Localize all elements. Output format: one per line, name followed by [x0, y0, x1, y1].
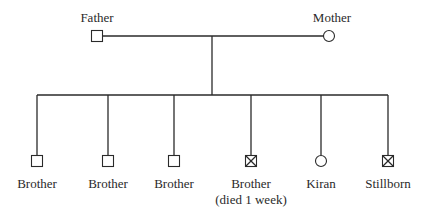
female-circle-icon [316, 156, 327, 167]
child-1: Brother [17, 95, 57, 191]
child-4-sublabel: (died 1 week) [215, 192, 286, 207]
parent-generation: Father Mother [80, 10, 351, 42]
deceased-male-square-icon [383, 156, 394, 167]
male-square-icon [169, 156, 180, 167]
child-5-label: Kiran [306, 176, 336, 191]
child-5: Kiran [306, 95, 336, 191]
child-3-label: Brother [154, 176, 194, 191]
child-6: Stillborn [365, 95, 411, 191]
father-square-icon [92, 31, 103, 42]
mother-label: Mother [313, 10, 352, 25]
child-4: Brother (died 1 week) [215, 95, 286, 207]
child-6-label: Stillborn [365, 176, 411, 191]
male-square-icon [32, 156, 43, 167]
male-square-icon [103, 156, 114, 167]
father-label: Father [80, 10, 114, 25]
pedigree-diagram: Father Mother Brother Brother Brother Br… [0, 0, 429, 218]
deceased-male-square-icon [246, 156, 257, 167]
child-3: Brother [154, 95, 194, 191]
child-1-label: Brother [17, 176, 57, 191]
child-2: Brother [88, 95, 128, 191]
child-2-label: Brother [88, 176, 128, 191]
child-4-label: Brother [231, 176, 271, 191]
mother-circle-icon [324, 31, 335, 42]
